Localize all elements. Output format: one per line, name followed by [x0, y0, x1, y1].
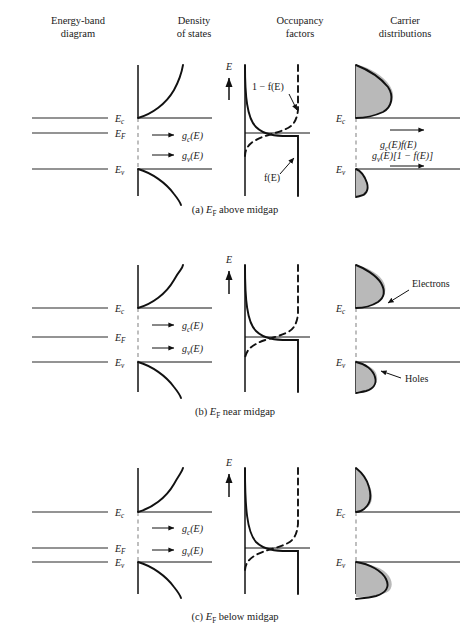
panel-c-carrier-ev-label: Ev [335, 557, 346, 571]
panel-c-f-curve [245, 468, 298, 594]
panel-b-gc-label: gc(E) [182, 320, 204, 334]
panel-b-density-of-states: gc(E) gv(E) [138, 265, 212, 398]
panel-c-energy-band-diagram: Ec EF Ev [32, 507, 126, 571]
panel-b-carrier-ec-label: Ec [335, 303, 346, 317]
panel-b-carrier-distributions: Ec Ev Electrons Holes [335, 265, 460, 393]
panel-b-electrons-leader [388, 290, 409, 303]
panel-c-gv-label: gv(E) [182, 545, 204, 559]
panel-a-carrier-ev-label: Ev [335, 164, 346, 178]
panel-b-ec-label: Ec [114, 303, 125, 317]
heading-occupancy-line2: factors [286, 28, 315, 39]
panel-a-one-minus-f-leader [289, 94, 297, 110]
panel-b-gv-curve [138, 362, 181, 398]
panel-c-ec-label: Ec [114, 507, 125, 521]
panel-b-holes-leader [381, 371, 401, 378]
panel-a-caption: (a) EF above midgap [192, 204, 279, 218]
panel-c-one-minus-f-curve [245, 468, 298, 571]
column-headings: Energy-band diagram Density of states Oc… [51, 15, 431, 39]
panel-b-electrons-label: Electrons [412, 278, 450, 289]
panel-b-energy-axis-label: E [225, 254, 232, 265]
panel-a-ev-label: Ev [114, 164, 125, 178]
panel-a-one-minus-f-curve [245, 65, 298, 156]
panel-a-f-label: f(E) [264, 172, 280, 184]
panel-b-gv-label: gv(E) [182, 343, 204, 357]
panel-a-hole-dist-label: gv(E)[1 − f(E)] [372, 150, 433, 164]
panel-a-gc-curve [138, 65, 183, 118]
panel-c-caption: (c) EF below midgap [191, 611, 278, 625]
panel-a-gc-label: gc(E) [182, 130, 204, 144]
panel-a-energy-axis-label: E [225, 61, 232, 72]
panel-b-caption: (b) EF near midgap [195, 406, 275, 420]
panel-b-ef-label: EF [114, 332, 126, 346]
panel-a-density-of-states: gc(E) gv(E) [138, 65, 212, 205]
panel-b-electron-fill [356, 265, 385, 308]
heading-density-line1: Density [178, 15, 211, 26]
panel-a-one-minus-f-label: 1 − f(E) [252, 81, 284, 93]
panel-c: Ec EF Ev gc(E) gv( [32, 457, 460, 625]
heading-energy-band-line2: diagram [61, 28, 95, 39]
panel-c-ef-label: EF [114, 543, 126, 557]
panel-c-ev-label: Ev [114, 557, 125, 571]
heading-density-line2: of states [177, 28, 212, 39]
panel-a-electron-fill [356, 65, 393, 118]
panel-a-energy-band-diagram: Ec EF Ev [32, 113, 126, 178]
panel-a-f-leader [280, 158, 294, 174]
panel-b-f-curve [245, 265, 298, 392]
panel-a-ef-label: EF [114, 128, 126, 142]
panel-a-gv-label: gv(E) [182, 150, 204, 164]
heading-occupancy-line1: Occupancy [276, 15, 324, 26]
heading-energy-band-line1: Energy-band [51, 15, 106, 26]
panel-b-occupancy-factors: E [225, 254, 310, 392]
panel-c-carrier-ec-label: Ec [335, 507, 346, 521]
heading-carrier-line1: Carrier [390, 15, 420, 26]
panel-c-gc-curve [138, 468, 183, 512]
panel-c-gv-curve [138, 562, 181, 598]
panel-c-carrier-distributions: Ec Ev [335, 468, 460, 599]
panel-c-density-of-states: gc(E) gv(E) [138, 468, 212, 598]
panel-b-gc-curve [138, 265, 183, 308]
panel-c-gc-label: gc(E) [182, 523, 204, 537]
panel-b-one-minus-f-curve [245, 265, 298, 360]
panel-c-energy-axis-label: E [225, 457, 232, 468]
carrier-distribution-figure: Energy-band diagram Density of states Oc… [0, 0, 470, 643]
panel-b: Ec EF Ev gc(E) gv( [32, 254, 460, 420]
heading-carrier-line2: distributions [379, 28, 432, 39]
panel-a-ec-label: Ec [114, 113, 125, 127]
panel-a: Ec EF Ev gc(E) [32, 61, 460, 218]
panel-b-energy-band-diagram: Ec EF Ev [32, 303, 126, 371]
panel-a-carrier-ec-label: Ec [335, 113, 346, 127]
panel-b-holes-label: Holes [405, 373, 428, 384]
panel-b-ev-label: Ev [114, 357, 125, 371]
panel-a-occupancy-factors: E 1 − f(E) f(E) [225, 61, 310, 196]
panel-a-carrier-distributions: Ec Ev gc(E)f(E) gv(E)[1 − f(E)] [335, 65, 460, 197]
panel-b-carrier-ev-label: Ev [335, 357, 346, 371]
panel-a-gv-curve [138, 169, 181, 205]
panel-c-occupancy-factors: E [225, 457, 310, 594]
